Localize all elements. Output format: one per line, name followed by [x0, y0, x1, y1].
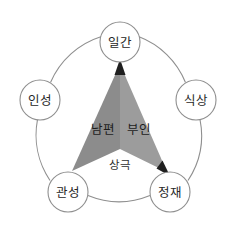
node-jeongjae[interactable]: 정재: [150, 172, 190, 212]
node-inseong[interactable]: 인성: [20, 80, 60, 120]
diagram-root: ▫ ▪▪ ▪ ▫ 남편 부인 상극 일간: [0, 0, 236, 231]
five-element-cycle-diagram: 남편 부인 상극 일간 식상 정재 관성 인성: [0, 0, 236, 231]
sanggeuk-wedge-left: [72, 64, 120, 171]
arc-ilgan-siksang: [139, 37, 186, 83]
arc-gwanseong-inseong: [36, 120, 50, 181]
center-label-wife: 부인: [127, 122, 151, 137]
center-label-sanggeuk: 상극: [109, 158, 131, 172]
arc-jeongjae-gwanseong: [88, 196, 150, 202]
sanggeuk-wedge-right: [120, 64, 167, 172]
node-jeongjae-label: 정재: [158, 185, 182, 200]
arc-inseong-ilgan: [51, 37, 102, 83]
node-siksang[interactable]: 식상: [176, 80, 216, 120]
sanggeuk-wedge: [72, 64, 167, 172]
node-siksang-label: 식상: [184, 93, 208, 108]
center-label-husband: 남편: [91, 122, 115, 137]
node-gwanseong-label: 관성: [56, 185, 80, 200]
node-gwanseong[interactable]: 관성: [48, 172, 88, 212]
node-inseong-label: 인성: [28, 93, 52, 108]
arc-siksang-jeongjae: [188, 120, 202, 181]
node-ilgan[interactable]: 일간: [100, 22, 140, 62]
node-ilgan-label: 일간: [108, 35, 132, 50]
